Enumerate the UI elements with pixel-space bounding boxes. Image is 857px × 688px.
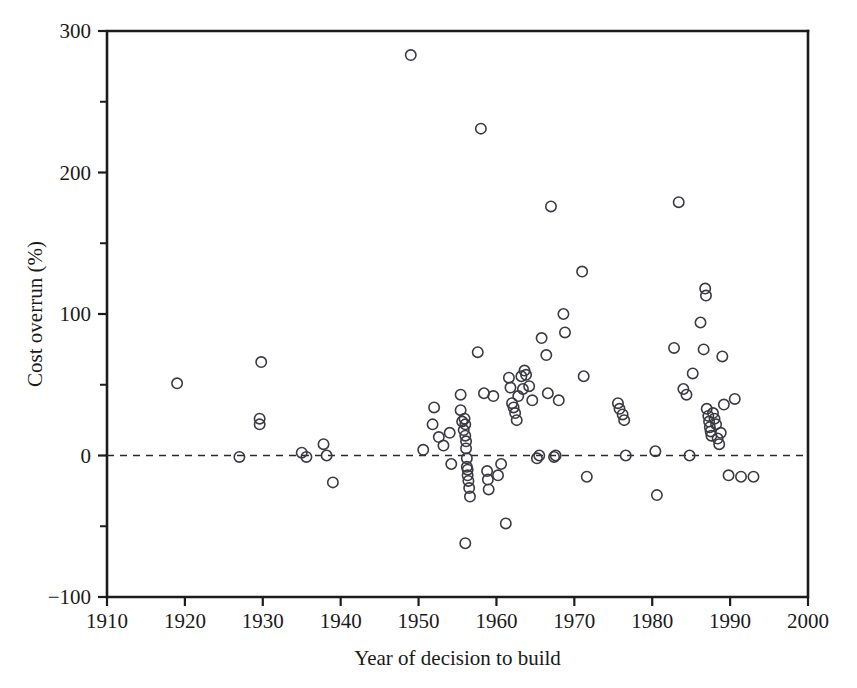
- data-point: [473, 347, 483, 357]
- data-point: [256, 357, 266, 367]
- data-point: [446, 459, 456, 469]
- data-point: [669, 343, 679, 353]
- data-point: [558, 309, 568, 319]
- x-tick-label: 1950: [398, 609, 440, 633]
- data-point: [730, 394, 740, 404]
- data-point: [328, 477, 338, 487]
- x-tick-label: 2000: [787, 609, 829, 633]
- data-point: [504, 372, 514, 382]
- data-point: [736, 472, 746, 482]
- data-point: [688, 368, 698, 378]
- chart-frame: −100010020030019101920193019401950196019…: [23, 19, 829, 670]
- y-axis-title: Cost overrun (%): [23, 241, 47, 387]
- y-tick-label: −100: [48, 585, 91, 609]
- data-point: [460, 538, 470, 548]
- axis-ticks: [98, 31, 808, 606]
- data-point: [546, 201, 556, 211]
- data-point: [695, 317, 705, 327]
- y-tick-label: 200: [60, 161, 92, 185]
- x-tick-label: 1960: [475, 609, 517, 633]
- axis-frame-top-left: [107, 31, 808, 597]
- x-axis-title: Year of decision to build: [354, 646, 561, 670]
- data-point: [748, 472, 758, 482]
- x-tick-label: 1990: [709, 609, 751, 633]
- data-point: [719, 399, 729, 409]
- data-point: [493, 470, 503, 480]
- data-point: [536, 333, 546, 343]
- data-point: [560, 327, 570, 337]
- x-tick-label: 1940: [320, 609, 362, 633]
- data-point: [512, 415, 522, 425]
- axis-frame-bottom-right: [107, 31, 808, 597]
- data-point: [717, 351, 727, 361]
- data-point: [554, 395, 564, 405]
- data-point: [418, 445, 428, 455]
- data-point: [438, 440, 448, 450]
- data-point: [429, 402, 439, 412]
- data-point: [674, 197, 684, 207]
- data-point: [701, 290, 711, 300]
- data-point: [318, 439, 328, 449]
- data-point: [496, 459, 506, 469]
- plot-canvas: −100010020030019101920193019401950196019…: [0, 0, 857, 688]
- data-point: [527, 395, 537, 405]
- data-point: [578, 371, 588, 381]
- x-tick-label: 1970: [553, 609, 595, 633]
- data-point: [543, 388, 553, 398]
- data-point: [234, 452, 244, 462]
- data-point: [723, 470, 733, 480]
- data-points: [172, 50, 759, 549]
- y-tick-label: 100: [60, 302, 92, 326]
- data-point: [455, 389, 465, 399]
- data-point: [582, 472, 592, 482]
- data-point: [541, 350, 551, 360]
- data-point: [488, 391, 498, 401]
- data-point: [577, 266, 587, 276]
- data-point: [455, 405, 465, 415]
- x-tick-label: 1920: [164, 609, 206, 633]
- data-point: [406, 50, 416, 60]
- data-point: [524, 381, 534, 391]
- x-tick-label: 1930: [242, 609, 284, 633]
- data-point: [483, 484, 493, 494]
- data-point: [505, 382, 515, 392]
- y-tick-label: 0: [81, 444, 92, 468]
- x-tick-label: 1980: [631, 609, 673, 633]
- data-point: [445, 428, 455, 438]
- y-tick-label: 300: [60, 19, 92, 43]
- x-tick-label: 1910: [86, 609, 128, 633]
- data-point: [501, 518, 511, 528]
- scatter-chart-figure: −100010020030019101920193019401950196019…: [0, 0, 857, 688]
- data-point: [461, 443, 471, 453]
- data-point: [652, 490, 662, 500]
- data-point: [698, 344, 708, 354]
- data-point: [476, 123, 486, 133]
- axis-tick-labels: −100010020030019101920193019401950196019…: [23, 19, 829, 670]
- data-point: [427, 419, 437, 429]
- data-point: [172, 378, 182, 388]
